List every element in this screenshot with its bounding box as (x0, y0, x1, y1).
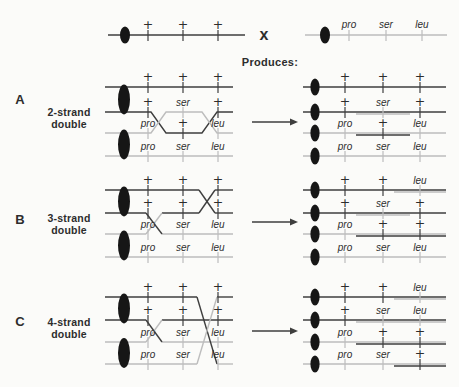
header-left-marker: + (178, 17, 188, 32)
left-marker-label: + (178, 115, 188, 130)
left-marker-label: + (213, 279, 223, 294)
product-marker-label: leu (413, 175, 427, 186)
centromere-bivalent-bottom (118, 231, 130, 261)
product-marker-label: ser (376, 198, 391, 209)
centromere-product (310, 248, 319, 265)
left-marker-label: + (213, 94, 223, 109)
crossover-figure: +++proserleu++++ser+pro+leuproserleu++++… (0, 0, 459, 387)
section-letter-a: A (15, 92, 25, 107)
section-title-b-line2: double (51, 224, 87, 236)
left-marker-label: + (143, 195, 153, 210)
left-marker-label: + (178, 279, 188, 294)
left-marker-label: leu (211, 141, 225, 152)
section-title-b-line1: 3-strand (47, 212, 90, 224)
section-letter-c: C (15, 314, 25, 329)
product-marker-label: + (340, 302, 350, 317)
product-marker-label: leu (413, 141, 427, 152)
centromere-bivalent-bottom (118, 130, 130, 160)
product-marker-label: + (415, 324, 425, 339)
centromere-product (310, 204, 319, 221)
product-marker-label: + (378, 216, 388, 231)
product-marker-label: ser (376, 349, 391, 360)
left-marker-label: + (143, 69, 153, 84)
product-marker-label: ser (376, 141, 391, 152)
product-marker-label: pro (337, 141, 353, 152)
left-marker-label: ser (176, 97, 191, 108)
section-title-a-line1: 2-strand (47, 106, 90, 118)
section-title-c-line2: double (51, 328, 87, 340)
left-marker-label: + (213, 302, 223, 317)
produces-arrow-head (290, 219, 298, 226)
product-marker-label: ser (376, 305, 391, 316)
centromere-product (310, 147, 319, 164)
figure-svg: +++proserleu++++ser+pro+leuproserleu++++… (0, 0, 459, 387)
centromere-bivalent-bottom (118, 338, 130, 368)
product-marker-label: + (378, 279, 388, 294)
left-marker-label: + (213, 195, 223, 210)
product-marker-label: + (378, 69, 388, 84)
generated-diagram-layer: +++proserleu++++ser+pro+leuproserleu++++… (105, 17, 447, 373)
product-marker-label: + (415, 216, 425, 231)
left-marker-label: + (213, 69, 223, 84)
product-marker-label: leu (413, 282, 427, 293)
left-marker-label: ser (176, 327, 191, 338)
product-marker-label: ser (376, 97, 391, 108)
product-marker-label: leu (413, 305, 427, 316)
product-marker-label: pro (337, 327, 353, 338)
left-marker-label: leu (211, 118, 225, 129)
product-marker-label: + (340, 69, 350, 84)
centromere-product (310, 355, 319, 372)
left-marker-label: pro (140, 327, 156, 338)
centromere-bivalent-top (118, 187, 130, 217)
product-marker-label: + (378, 324, 388, 339)
left-marker-label: pro (140, 242, 156, 253)
left-marker-label: leu (211, 349, 225, 360)
centromere-product (310, 333, 319, 350)
product-marker-label: + (340, 195, 350, 210)
left-marker-label: pro (140, 219, 156, 230)
centromere-product (310, 225, 319, 242)
product-marker-label: ser (376, 242, 391, 253)
centromere-parent-left (120, 26, 130, 43)
product-marker-label: pro (337, 219, 353, 230)
product-marker-label: + (415, 346, 425, 361)
left-marker-label: leu (211, 219, 225, 230)
header-left-marker: + (143, 17, 153, 32)
product-marker-label: + (378, 172, 388, 187)
left-marker-label: ser (176, 349, 191, 360)
left-marker-label: ser (176, 141, 191, 152)
header-left-marker: + (213, 17, 223, 32)
left-marker-label: + (143, 302, 153, 317)
header-right-marker: leu (415, 19, 429, 30)
left-marker-label: pro (140, 141, 156, 152)
product-marker-label: pro (337, 242, 353, 253)
left-marker-label: + (143, 279, 153, 294)
left-marker-label: pro (140, 118, 156, 129)
left-marker-label: + (178, 69, 188, 84)
centromere-product (310, 78, 319, 95)
produces-arrow-head (290, 119, 298, 126)
section-title-a-line2: double (51, 118, 87, 130)
centromere-product (310, 181, 319, 198)
product-marker-label: leu (413, 242, 427, 253)
left-marker-label: + (143, 172, 153, 187)
product-marker-label: + (415, 69, 425, 84)
product-marker-label: pro (337, 349, 353, 360)
left-marker-label: ser (176, 219, 191, 230)
centromere-bivalent-top (118, 85, 130, 115)
left-marker-label: leu (211, 327, 225, 338)
section-letter-b: B (15, 212, 24, 227)
centromere-parent-right (320, 26, 330, 43)
product-marker-label: leu (413, 118, 427, 129)
product-marker-label: + (378, 115, 388, 130)
left-marker-label: pro (140, 349, 156, 360)
left-marker-label: ser (176, 242, 191, 253)
product-marker-label: + (340, 279, 350, 294)
left-marker-label: leu (211, 242, 225, 253)
left-marker-label: + (213, 172, 223, 187)
produces-arrow-head (290, 328, 298, 335)
centromere-product (310, 103, 319, 120)
cross-symbol: x (260, 26, 269, 43)
product-marker-label: + (340, 94, 350, 109)
left-marker-label: + (143, 94, 153, 109)
